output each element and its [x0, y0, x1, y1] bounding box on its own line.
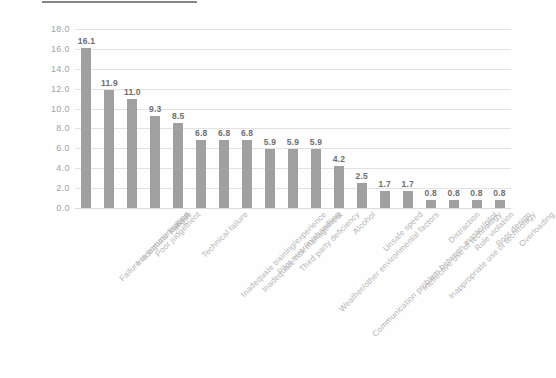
bar-value-label: 5.9	[287, 137, 299, 147]
bar[interactable]	[265, 149, 275, 208]
bar[interactable]	[403, 191, 413, 208]
y-axis-tick-label: 8.0	[56, 123, 70, 133]
bar[interactable]	[288, 149, 298, 208]
top-rule-artifact	[42, 1, 197, 3]
bar-value-label: 6.8	[241, 128, 253, 138]
bar-slot[interactable]: 1.7	[396, 29, 419, 208]
bar[interactable]	[127, 99, 137, 208]
y-axis-tick-label: 2.0	[56, 183, 70, 193]
gridline	[75, 208, 511, 209]
bar-value-label: 0.8	[447, 188, 459, 198]
bar-slot[interactable]: 8.5	[167, 29, 190, 208]
y-axis-tick-label: 0.0	[56, 203, 70, 213]
bar-value-label: 16.1	[78, 36, 95, 46]
x-axis-category-label: Technical failure	[200, 210, 250, 260]
bar[interactable]	[173, 123, 183, 208]
y-axis-tick-label: 6.0	[56, 143, 70, 153]
bar-slot[interactable]: 2.5	[350, 29, 373, 208]
bar-value-label: 0.8	[470, 188, 482, 198]
bar-slot[interactable]: 5.9	[282, 29, 305, 208]
bar-value-label: 11.9	[101, 78, 118, 88]
bar-value-label: 4.2	[333, 154, 345, 164]
bar-slot[interactable]: 1.7	[373, 29, 396, 208]
bar-slot[interactable]: 4.2	[327, 29, 350, 208]
bar-value-label: 9.3	[149, 104, 161, 114]
y-axis-tick-label: 14.0	[51, 64, 70, 74]
bar-value-label: 1.7	[379, 179, 391, 189]
bar-slot[interactable]: 9.3	[144, 29, 167, 208]
bar[interactable]	[104, 90, 114, 208]
bar[interactable]	[81, 48, 91, 208]
bar-slot[interactable]: 11.9	[98, 29, 121, 208]
y-axis-tick-label: 18.0	[51, 24, 70, 34]
bar[interactable]	[334, 166, 344, 208]
bar-slot[interactable]: 16.1	[75, 29, 98, 208]
bar-slot[interactable]: 0.8	[488, 29, 511, 208]
y-axis: 18.016.014.012.010.08.06.04.02.00.0	[38, 29, 70, 208]
bar-slot[interactable]: 0.8	[419, 29, 442, 208]
bar[interactable]	[495, 200, 505, 208]
bar[interactable]	[196, 140, 206, 208]
bar-slot[interactable]: 6.8	[213, 29, 236, 208]
bar[interactable]	[426, 200, 436, 208]
bar-value-label: 5.9	[264, 137, 276, 147]
bar-value-label: 11.0	[124, 87, 141, 97]
bar[interactable]	[150, 116, 160, 208]
y-axis-tick-label: 12.0	[51, 84, 70, 94]
bar-value-label: 0.8	[493, 188, 505, 198]
y-axis-tick-label: 10.0	[51, 104, 70, 114]
bar-value-label: 6.8	[195, 128, 207, 138]
plot-area: 16.111.911.09.38.56.86.86.85.95.95.94.22…	[75, 29, 511, 208]
bar-value-label: 8.5	[172, 111, 184, 121]
bar[interactable]	[449, 200, 459, 208]
bar-slot[interactable]: 11.0	[121, 29, 144, 208]
bar[interactable]	[472, 200, 482, 208]
bar-value-label: 6.8	[218, 128, 230, 138]
bar[interactable]	[219, 140, 229, 208]
x-axis-category-labels: Failure in communicationInadequate looko…	[75, 210, 511, 370]
bar-slot[interactable]: 0.8	[465, 29, 488, 208]
y-axis-tick-label: 4.0	[56, 163, 70, 173]
bar[interactable]	[311, 149, 321, 208]
bar-value-label: 2.5	[356, 171, 368, 181]
bar-slot[interactable]: 5.9	[304, 29, 327, 208]
bar[interactable]	[380, 191, 390, 208]
bar-value-label: 5.9	[310, 137, 322, 147]
bar-slot[interactable]: 5.9	[259, 29, 282, 208]
bar-slot[interactable]: 0.8	[442, 29, 465, 208]
y-axis-tick-label: 16.0	[51, 44, 70, 54]
bar-value-label: 1.7	[402, 179, 414, 189]
x-axis-category-label: Weather/other environmental factors	[337, 210, 441, 314]
bar-value-label: 0.8	[424, 188, 436, 198]
bar[interactable]	[242, 140, 252, 208]
bar[interactable]	[357, 183, 367, 208]
bar-slot[interactable]: 6.8	[190, 29, 213, 208]
bar-slot[interactable]: 6.8	[236, 29, 259, 208]
